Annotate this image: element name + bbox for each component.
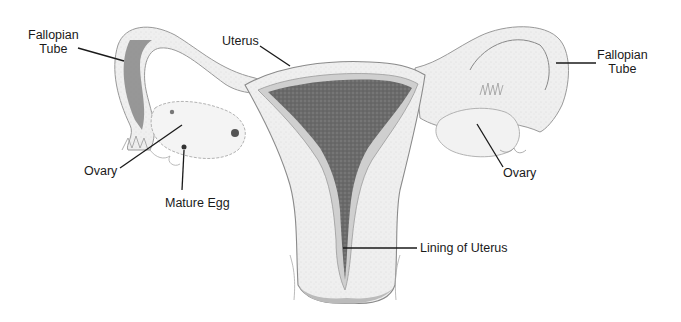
vaginal-wall-left xyxy=(290,255,295,300)
leader-uterus xyxy=(260,46,290,66)
leader-mature-egg xyxy=(182,150,184,190)
label-uterus: Uterus xyxy=(222,34,259,48)
uterus-body xyxy=(245,62,425,304)
label-line: Tube xyxy=(28,42,79,56)
label-line: Tube xyxy=(597,62,648,76)
label-mature-egg: Mature Egg xyxy=(165,196,230,210)
anatomy-diagram: Fallopian Tube Uterus Ovary Mature Egg F… xyxy=(0,0,681,322)
label-fallopian-tube-right: Fallopian Tube xyxy=(597,48,648,76)
label-line: Fallopian xyxy=(597,48,648,62)
uterus-illustration xyxy=(0,0,681,322)
left-ovary xyxy=(150,101,245,165)
label-lining-of-uterus: Lining of Uterus xyxy=(420,241,508,255)
label-fallopian-tube-left: Fallopian Tube xyxy=(28,28,79,56)
label-ovary-left: Ovary xyxy=(84,164,117,178)
label-ovary-right: Ovary xyxy=(503,166,536,180)
label-line: Fallopian xyxy=(28,28,79,42)
